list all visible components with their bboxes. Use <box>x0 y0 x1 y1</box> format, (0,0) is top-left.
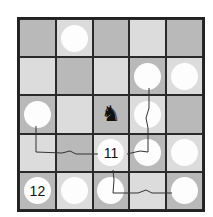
cell-r2-c1 <box>56 95 93 133</box>
target-circle <box>24 101 51 128</box>
cell-r0-c2 <box>93 19 130 57</box>
cell-r2-c3 <box>129 95 166 133</box>
cell-r0-c0 <box>19 19 56 57</box>
target-circle <box>61 177 88 204</box>
target-circle <box>134 63 161 90</box>
cell-r4-c0: 12 <box>19 172 56 210</box>
cell-r2-c0 <box>19 95 56 133</box>
count-circle-12: 12 <box>24 177 51 204</box>
cell-r1-c3 <box>129 57 166 95</box>
cell-r1-c0 <box>19 57 56 95</box>
cell-r3-c3 <box>129 134 166 172</box>
cell-r1-c1 <box>56 57 93 95</box>
cell-r1-c2 <box>93 57 130 95</box>
count-circle-11: 11 <box>97 139 124 166</box>
target-circle <box>134 139 161 166</box>
cell-r1-c4 <box>166 57 203 95</box>
cell-r4-c3 <box>129 172 166 210</box>
cell-r3-c0 <box>19 134 56 172</box>
cell-r0-c1 <box>56 19 93 57</box>
target-circle <box>171 63 198 90</box>
cell-r2-c4 <box>166 95 203 133</box>
cell-r3-c1 <box>56 134 93 172</box>
cell-r3-c4 <box>166 134 203 172</box>
cell-r2-c2: ♞ <box>93 95 130 133</box>
cell-r0-c3 <box>129 19 166 57</box>
target-circle <box>97 177 124 204</box>
cell-r3-c2: 11 <box>93 134 130 172</box>
target-circle <box>171 177 198 204</box>
cell-r4-c1 <box>56 172 93 210</box>
cell-r4-c4 <box>166 172 203 210</box>
chess-board: ♞ 11 12 <box>17 17 205 212</box>
knight-icon: ♞ <box>101 103 121 125</box>
target-circle <box>171 139 198 166</box>
target-circle <box>61 25 88 52</box>
target-circle <box>134 101 161 128</box>
cell-r0-c4 <box>166 19 203 57</box>
cell-r4-c2 <box>93 172 130 210</box>
